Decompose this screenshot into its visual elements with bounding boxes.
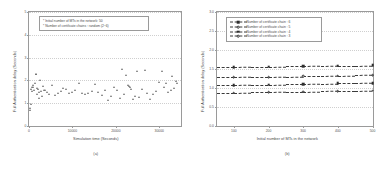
- y-tick-label: 1.5: [209, 67, 214, 71]
- scatter-point: [136, 70, 138, 72]
- series-line-segment: [286, 66, 303, 67]
- scatter-point: [39, 79, 41, 81]
- x-tick-label: 30000: [155, 129, 164, 133]
- series-line-segment: [234, 85, 251, 86]
- series-line-segment: [234, 92, 251, 93]
- legend-item: Number of certificate chain : 3: [230, 34, 318, 39]
- series-data-point: [267, 91, 270, 94]
- scatter-point: [97, 91, 99, 93]
- scatter-point: [165, 82, 167, 84]
- scatter-point: [170, 89, 172, 91]
- gridline-horizontal: [29, 35, 181, 36]
- legend-marker-icon: [237, 26, 240, 29]
- series-data-point: [337, 64, 340, 67]
- series-line-segment: [217, 93, 234, 94]
- legend-marker-icon: [237, 35, 240, 38]
- x-tick-label: 10000: [68, 129, 77, 133]
- series-line-segment: [355, 91, 372, 92]
- series-line-segment: [303, 66, 320, 67]
- legend-label: Number of certificate chain : 4: [247, 30, 291, 34]
- series-data-point: [371, 89, 374, 92]
- scatter-point: [87, 92, 89, 94]
- y-tick-mark: [215, 69, 217, 70]
- series-data-point: [233, 66, 236, 69]
- series-marker-icon: [371, 82, 374, 85]
- series-marker-icon: [233, 66, 236, 69]
- y-tick-label: 0.0: [209, 124, 214, 128]
- series-line-segment: [338, 66, 355, 67]
- y-tick-mark: [215, 126, 217, 127]
- gridline-horizontal: [217, 88, 373, 89]
- scatter-point: [138, 96, 140, 98]
- scatter-point: [42, 85, 44, 87]
- gridline-horizontal: [29, 12, 181, 13]
- scatter-point: [116, 89, 118, 91]
- series-line-segment: [355, 75, 372, 76]
- series-line-segment: [234, 67, 251, 68]
- scatter-point: [125, 74, 127, 76]
- series-data-point: [267, 76, 270, 79]
- y-tick-mark: [215, 12, 217, 13]
- series-line-segment: [217, 67, 234, 68]
- series-marker-icon: [302, 83, 305, 86]
- y-tick-mark: [27, 12, 29, 13]
- series-data-point: [302, 75, 305, 78]
- caption-a: (a): [0, 151, 192, 156]
- scatter-point: [78, 82, 80, 84]
- series-line-segment: [269, 84, 286, 85]
- legend-marker-icon: [237, 21, 240, 24]
- series-marker-icon: [267, 83, 270, 86]
- annotation-line-2: * Number of certificate chains : random …: [43, 24, 145, 29]
- scatter-point: [146, 92, 148, 94]
- gridline-horizontal: [217, 50, 373, 51]
- y-tick-mark: [215, 107, 217, 108]
- series-marker-icon: [267, 76, 270, 79]
- series-data-point: [371, 74, 374, 77]
- series-line-segment: [269, 66, 286, 67]
- x-tick-label: 0: [28, 129, 30, 133]
- y-tick-label: 3: [25, 56, 27, 60]
- y-tick-mark: [27, 58, 29, 59]
- scatter-point: [155, 90, 157, 92]
- y-tick-label: 2.5: [209, 29, 214, 33]
- series-marker-icon: [302, 75, 305, 78]
- series-line-segment: [269, 77, 286, 78]
- legend-marker-icon: [237, 30, 240, 33]
- series-line-segment: [321, 76, 338, 77]
- series-line-segment: [251, 67, 268, 68]
- scatter-point: [54, 94, 56, 96]
- series-data-point: [371, 64, 374, 67]
- series-marker-icon: [337, 75, 340, 78]
- y-tick-mark: [215, 88, 217, 89]
- series-data-point: [337, 75, 340, 78]
- series-marker-icon: [302, 91, 305, 94]
- y-axis-label-a: Full Authentication delay (Seconds): [12, 51, 17, 112]
- scatter-point: [171, 75, 173, 77]
- series-line-segment: [321, 91, 338, 92]
- legend-marker-glyph: [237, 26, 240, 29]
- series-marker-icon: [302, 65, 305, 68]
- scatter-point: [119, 97, 121, 99]
- scatter-point: [38, 97, 40, 99]
- gridline-horizontal: [217, 107, 373, 108]
- series-line-segment: [355, 65, 372, 66]
- scatter-point: [36, 93, 38, 95]
- scatter-point: [74, 89, 76, 91]
- scatter-point: [152, 93, 154, 95]
- plot-area-b: 0.00.51.01.52.02.53.0100200300400500 Num…: [216, 11, 374, 127]
- scatter-point: [132, 98, 134, 100]
- legend-label: Number of certificate chain : 3: [247, 34, 291, 38]
- scatter-point: [37, 88, 39, 90]
- x-tick-label: 200: [266, 129, 272, 133]
- scatter-point: [68, 92, 70, 94]
- series-marker-icon: [337, 90, 340, 93]
- scatter-point: [32, 86, 34, 88]
- y-tick-label: 1: [25, 101, 27, 105]
- scatter-point: [158, 81, 160, 83]
- panel-b: 0.00.51.01.52.02.53.0100200300400500 Num…: [192, 0, 383, 169]
- gridline-horizontal: [29, 58, 181, 59]
- series-line-segment: [286, 92, 303, 93]
- series-data-point: [337, 82, 340, 85]
- series-data-point: [302, 91, 305, 94]
- scatter-point: [29, 109, 31, 111]
